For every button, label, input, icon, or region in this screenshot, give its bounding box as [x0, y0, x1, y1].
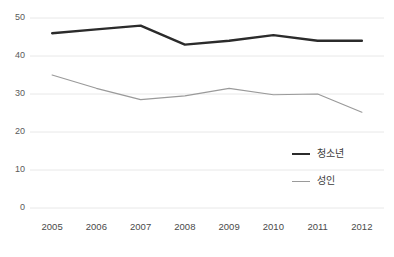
line-chart: 01020304050 2005200620072008200920102011…: [0, 0, 394, 257]
x-axis-tick-label: 2010: [253, 222, 293, 232]
x-axis-tick-label: 2009: [209, 222, 249, 232]
y-axis-tick-label: 10: [3, 165, 25, 174]
legend-item-adult[interactable]: 성인: [292, 176, 335, 186]
chart-plot-area: [0, 0, 394, 257]
y-axis-tick-label: 0: [3, 203, 25, 212]
legend-label-adult: 성인: [317, 176, 335, 186]
x-axis-tick-label: 2012: [342, 222, 382, 232]
series-lines-group: [52, 26, 362, 113]
legend-swatch-adult: [292, 181, 310, 182]
series-line-youth: [52, 26, 362, 45]
legend-label-youth: 청소년: [317, 149, 344, 159]
y-axis-tick-label: 30: [3, 89, 25, 98]
legend-item-youth[interactable]: 청소년: [292, 149, 344, 159]
x-axis-tick-label: 2006: [76, 222, 116, 232]
x-axis-tick-label: 2005: [32, 222, 72, 232]
x-axis-tick-label: 2008: [165, 222, 205, 232]
x-axis-tick-label: 2011: [298, 222, 338, 232]
legend-swatch-youth: [292, 153, 310, 155]
y-axis-tick-label: 50: [3, 13, 25, 22]
x-axis-tick-label: 2007: [121, 222, 161, 232]
y-axis-tick-label: 20: [3, 127, 25, 136]
y-axis-tick-label: 40: [3, 51, 25, 60]
